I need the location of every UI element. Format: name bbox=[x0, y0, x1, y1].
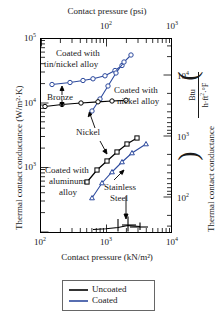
series-nickel bbox=[85, 136, 139, 184]
data-point bbox=[96, 100, 100, 104]
data-point bbox=[115, 150, 119, 154]
ann-stainless-line1: Stainless bbox=[104, 182, 136, 192]
ann-aluminum-line3: alloy bbox=[59, 187, 77, 197]
data-point bbox=[114, 71, 118, 75]
data-point bbox=[103, 74, 107, 78]
data-point bbox=[129, 53, 133, 57]
data-point bbox=[79, 101, 83, 105]
ann-tin-nickel-line2: tin/nickel alloy bbox=[44, 59, 98, 69]
data-point bbox=[122, 60, 126, 64]
data-point bbox=[43, 104, 47, 108]
ann-tin-nickel-line1: Coated with bbox=[56, 48, 100, 58]
data-point bbox=[144, 142, 149, 146]
data-point bbox=[110, 99, 114, 103]
legend-label-uncoated: Uncoated bbox=[92, 284, 126, 294]
data-point bbox=[85, 180, 89, 184]
ann-aluminum-line2: aluminum bbox=[49, 176, 86, 186]
ann-aluminum-line1: Coated with bbox=[45, 165, 89, 175]
ann-nickel: Nickel bbox=[76, 127, 100, 137]
ann-nickel-alloy-line2: nickel alloy bbox=[117, 96, 159, 106]
data-point bbox=[135, 136, 139, 140]
data-point bbox=[106, 84, 110, 88]
ann-nickel-alloy-line1: Coated with bbox=[114, 85, 158, 95]
data-point bbox=[68, 80, 72, 84]
data-point bbox=[81, 78, 85, 82]
ann-stainless-line2: Steel bbox=[110, 193, 128, 203]
data-point bbox=[91, 77, 95, 81]
figure-root: Contact pressure (psi) 102 103 105 104 1… bbox=[0, 0, 215, 315]
data-point bbox=[95, 168, 99, 172]
data-point bbox=[125, 142, 129, 146]
ann-bronze: Bronze bbox=[47, 92, 73, 102]
plot-svg bbox=[0, 0, 215, 315]
series-stainless-steel bbox=[93, 217, 148, 232]
data-point bbox=[130, 151, 135, 155]
data-point bbox=[50, 82, 54, 86]
legend-label-coated: Coated bbox=[92, 295, 118, 305]
data-point bbox=[105, 159, 109, 163]
